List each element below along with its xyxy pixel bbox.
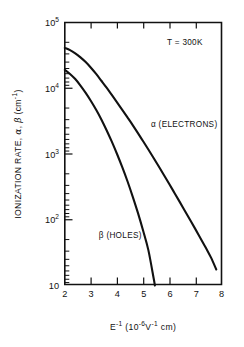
- y-tick-label-100000: 105: [45, 16, 59, 28]
- plot-frame: [65, 23, 222, 285]
- x-tick-label: 7: [194, 289, 199, 299]
- y-axis-title: IONIZATION RATE, α, β (cm-1): [11, 89, 23, 218]
- y-tick-label-10000: 104: [45, 82, 59, 94]
- x-tick-label: 5: [141, 289, 146, 299]
- x-tick-label: 3: [89, 289, 94, 299]
- x-tick-label: 2: [62, 289, 67, 299]
- chart-svg: 2 3 4 5 6 7 8 105 104 103 102 10 α (ELEC…: [0, 0, 244, 347]
- axes-box: [65, 23, 222, 285]
- y-ticks: [65, 42, 73, 282]
- beta-holes-curve: [65, 70, 155, 286]
- temperature-annotation: T = 300K: [167, 38, 203, 47]
- alpha-series-label: α (ELECTRONS): [151, 120, 217, 129]
- x-tick-label: 4: [115, 289, 120, 299]
- y-tick-labels: 105 104 103 102 10: [45, 16, 59, 291]
- y-tick-label-1000: 103: [45, 148, 59, 160]
- x-tick-labels: 2 3 4 5 6 7 8: [62, 289, 224, 299]
- x-axis-title: E-1 (10-6V-1 cm): [110, 320, 176, 332]
- y-tick-label-10: 10: [49, 281, 59, 291]
- beta-series-label: β (HOLES): [99, 231, 142, 240]
- x-tick-label: 6: [167, 289, 172, 299]
- x-tick-label: 8: [219, 289, 224, 299]
- data-curves: [65, 48, 216, 286]
- x-top-ticks: [91, 23, 196, 29]
- y-tick-label-100: 102: [45, 213, 59, 225]
- x-major-ticks: [91, 278, 196, 285]
- ionization-rate-chart: 2 3 4 5 6 7 8 105 104 103 102 10 α (ELEC…: [0, 0, 244, 347]
